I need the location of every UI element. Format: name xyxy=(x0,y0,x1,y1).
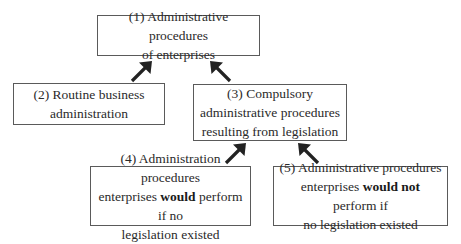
node-3-line-2: administrative procedures xyxy=(200,103,340,122)
node-administrative-procedures: (1) Administrative procedures of enterpr… xyxy=(97,15,260,56)
arrow-ne-icon xyxy=(224,141,248,165)
node-routine-business-administration: (2) Routine business administration xyxy=(13,83,165,125)
node-procedures-would-perform: (4) Administration procedures enterprise… xyxy=(90,166,251,226)
node-compulsory-procedures: (3) Compulsory administrative procedures… xyxy=(193,84,347,141)
node-5-line-3: no legislation existed xyxy=(278,215,443,234)
arrow-nw-icon xyxy=(208,59,232,83)
arrow-ne-icon xyxy=(130,59,154,83)
node-4-line-2: enterprises would perform if no xyxy=(95,187,246,225)
node-4-line-3: legislation existed xyxy=(95,225,246,244)
arrow-nw-icon xyxy=(296,141,320,165)
node-1-line-2: of enterprises xyxy=(102,45,255,64)
node-1-line-1: (1) Administrative procedures xyxy=(102,7,255,45)
node-3-line-3: resulting from legislation xyxy=(200,122,340,141)
node-procedures-would-not-perform: (5) Administrative procedures enterprise… xyxy=(273,166,448,226)
node-2-line-2: administration xyxy=(34,104,145,123)
node-5-line-2: enterprises would not perform if xyxy=(278,177,443,215)
node-2-line-1: (2) Routine business xyxy=(34,85,145,104)
node-3-line-1: (3) Compulsory xyxy=(200,84,340,103)
